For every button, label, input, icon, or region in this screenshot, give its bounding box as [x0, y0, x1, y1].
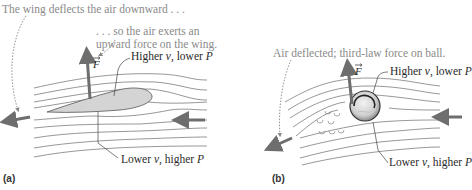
upper-label-b-P: P [465, 65, 472, 77]
callout-deflect-b [279, 60, 291, 135]
upper-label-a-P: P [206, 50, 213, 62]
caption-air-exerts-line2: upward force on the wing. [96, 39, 217, 51]
lower-label-a: Lower v, higher P [121, 154, 204, 166]
panel-label-b: (b) [272, 173, 285, 184]
panel-a-streamlines [34, 74, 207, 157]
outflow-arrow-a [8, 117, 30, 121]
lower-label-a-P: P [197, 153, 204, 165]
outflow-arrow-b [272, 138, 292, 147]
force-arrow-b [348, 67, 352, 104]
upper-label-b: Higher v, lower P [390, 66, 472, 78]
force-label-a: F [93, 59, 100, 70]
lower-label-b-P: P [465, 156, 472, 168]
upper-label-b-prefix: Higher [390, 65, 425, 77]
panel-label-a: (a) [3, 173, 15, 184]
lower-label-b: Lower v, higher P [389, 157, 472, 169]
upper-label-a-prefix: Higher [131, 50, 166, 62]
lower-label-a-prefix: Lower [121, 153, 154, 165]
caption-air-exerts-line1: . . . so the air exerts an [96, 26, 199, 38]
leader-lower-a [98, 112, 118, 158]
callout-deflect-a [12, 16, 26, 110]
caption-wing-deflects: The wing deflects the air downward . . . [2, 4, 185, 16]
upper-label-a-suffix: , lower [171, 50, 206, 62]
upper-label-a: Higher v, lower P [131, 51, 213, 63]
upper-label-b-suffix: , lower [430, 65, 465, 77]
caption-air-deflected: Air deflected; third-law force on ball. [273, 48, 445, 60]
lower-label-a-suffix: , higher [159, 153, 197, 165]
force-symbol-b: F [355, 65, 362, 77]
leader-upper-b [373, 72, 388, 93]
force-symbol-a: F [93, 58, 100, 70]
lower-label-b-suffix: , higher [427, 156, 465, 168]
lower-label-b-prefix: Lower [389, 156, 422, 168]
force-label-b: F [355, 66, 362, 77]
force-arrow-a [87, 55, 90, 99]
